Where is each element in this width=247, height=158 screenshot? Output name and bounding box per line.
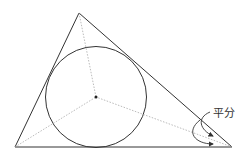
bisect-arrow-lower bbox=[193, 120, 213, 144]
incircle-diagram bbox=[0, 0, 247, 158]
incenter-point bbox=[95, 96, 98, 99]
bisect-arrow-upper bbox=[201, 112, 213, 136]
triangle bbox=[15, 13, 232, 147]
bisect-label: 平分 bbox=[213, 104, 235, 120]
